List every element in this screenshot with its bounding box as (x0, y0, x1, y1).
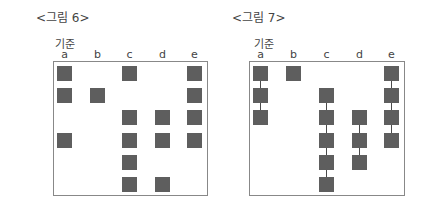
grid-cell-d-5 (352, 155, 367, 170)
column-label-d: d (155, 48, 170, 61)
grid-cell-e-1 (384, 66, 399, 81)
grid-cell-e-4 (384, 133, 399, 148)
grid-cell-c-3 (319, 110, 334, 125)
figure-7-grid-frame (249, 61, 405, 196)
column-label-a: a (57, 48, 72, 61)
column-label-b: b (286, 48, 301, 61)
grid-cell-e-2 (384, 88, 399, 103)
grid-cell-c-5 (319, 155, 334, 170)
figure-6-title: <그림 6> (36, 8, 90, 25)
grid-cell-a-1 (57, 88, 72, 103)
column-label-e: e (384, 48, 399, 61)
grid-cell-b-1 (286, 66, 301, 81)
grid-cell-a-1 (253, 66, 268, 81)
grid-cell-c-2 (122, 66, 137, 81)
column-label-b: b (90, 48, 105, 61)
grid-cell-d-4 (155, 110, 170, 125)
grid-cell-c-4 (122, 110, 137, 125)
grid-cell-d-4 (352, 133, 367, 148)
grid-cell-e-2 (187, 66, 202, 81)
connector-line (391, 73, 392, 140)
grid-cell-a-2 (253, 88, 268, 103)
grid-cell-d-3 (155, 133, 170, 148)
grid-cell-c-6 (319, 177, 334, 192)
grid-cell-c-3 (122, 133, 137, 148)
grid-cell-a-2 (57, 66, 72, 81)
column-label-c: c (122, 48, 137, 61)
column-label-a: a (253, 48, 268, 61)
grid-cell-c-4 (319, 133, 334, 148)
grid-cell-d-5 (155, 177, 170, 192)
grid-cell-e-1 (187, 88, 202, 103)
figure-6-grid-frame (53, 61, 208, 196)
grid-cell-c-6 (122, 155, 137, 170)
grid-cell-e-3 (187, 133, 202, 148)
grid-cell-a-3 (253, 110, 268, 125)
grid-cell-a-3 (57, 133, 72, 148)
grid-cell-c-2 (319, 88, 334, 103)
grid-cell-b-1 (90, 88, 105, 103)
column-label-c: c (319, 48, 334, 61)
grid-cell-c-5 (122, 177, 137, 192)
grid-cell-e-3 (384, 110, 399, 125)
figure-7-title: <그림 7> (232, 8, 286, 25)
grid-cell-e-4 (187, 110, 202, 125)
grid-cell-d-3 (352, 110, 367, 125)
column-label-e: e (187, 48, 202, 61)
column-label-d: d (352, 48, 367, 61)
